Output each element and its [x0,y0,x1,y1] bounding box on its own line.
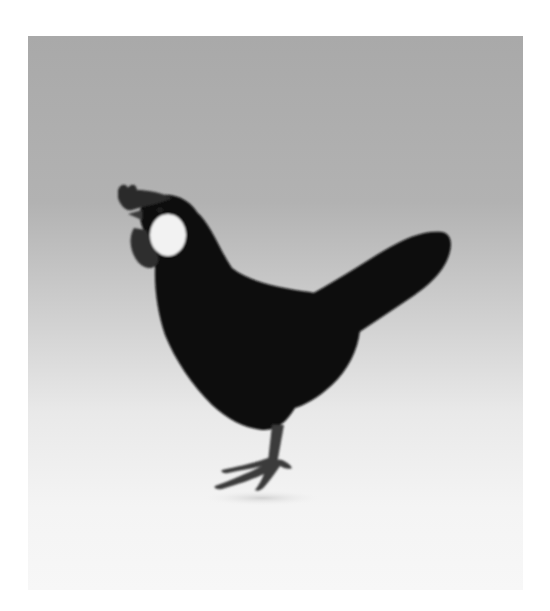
hen-photo [28,36,523,590]
foot [214,458,292,491]
floor-shadow [202,490,322,506]
hen-illustration [28,36,523,590]
earlobe [150,214,186,256]
leg [268,425,284,463]
eye [157,207,163,213]
beak [128,210,142,220]
